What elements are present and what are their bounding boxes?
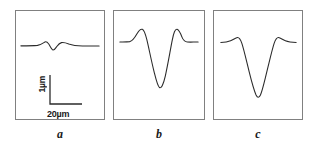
panel-a: 1µm 20µm bbox=[15, 10, 105, 120]
profile-trace-a bbox=[21, 42, 99, 50]
figure-container: 1µm 20µm a b c bbox=[0, 0, 317, 153]
profile-trace-b-svg bbox=[114, 11, 204, 119]
profile-trace-c-svg bbox=[214, 11, 302, 119]
profile-trace-b bbox=[120, 29, 198, 88]
scale-bar-corner-icon bbox=[46, 74, 88, 110]
panel-label-a: a bbox=[15, 124, 105, 144]
panel-c bbox=[213, 10, 303, 120]
profile-trace-c bbox=[221, 37, 296, 97]
scale-bar-horizontal-label: 20µm bbox=[47, 109, 69, 119]
panel-b bbox=[113, 10, 205, 120]
panel-label-b: b bbox=[113, 124, 205, 144]
scale-bar: 1µm 20µm bbox=[38, 74, 100, 122]
panel-label-c: c bbox=[213, 124, 303, 144]
